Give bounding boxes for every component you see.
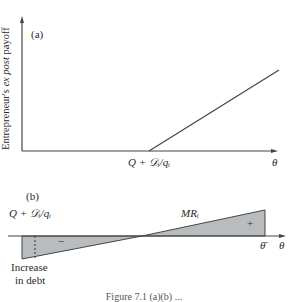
positive-sign: +	[247, 218, 253, 229]
panel-b-x-axis-label: θ	[279, 240, 284, 251]
figure-caption: Figure 7.1 (a)(b) ...	[0, 291, 288, 302]
threshold-label: Q + 𝒟ᵢ/qᵢ	[9, 208, 51, 219]
theta-bar-label: θ̄	[260, 240, 265, 251]
payoff-line	[149, 70, 279, 151]
kink-label: Q + 𝒟ᵢ/qᵢ	[128, 157, 170, 168]
annotation-line2: in debt	[15, 275, 45, 286]
y-axis-label: Entrepreneur's ex post payoff	[0, 27, 11, 150]
negative-sign: −	[58, 236, 64, 247]
panel-a-axes	[20, 16, 278, 153]
y-axis-label-prefix: Entrepreneur's	[0, 87, 11, 150]
negative-region	[22, 236, 142, 259]
y-axis-label-suffix: payoff	[0, 27, 11, 57]
mr-curve-label: MRᵢ	[181, 208, 199, 219]
panel-a-x-axis-label: θ	[272, 157, 277, 168]
annotation-line1: Increase	[11, 262, 48, 273]
y-axis-label-italic: ex post	[0, 57, 11, 86]
panel-a-tag: (a)	[31, 29, 43, 40]
panel-b-tag: (b)	[26, 191, 39, 202]
